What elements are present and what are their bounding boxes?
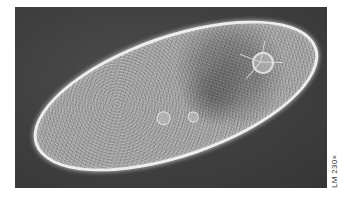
paramecium-cell	[15, 7, 327, 188]
micrograph-frame	[15, 7, 327, 188]
cytoplasm-texture	[19, 7, 327, 188]
magnification-label: LM 230×	[330, 155, 339, 188]
